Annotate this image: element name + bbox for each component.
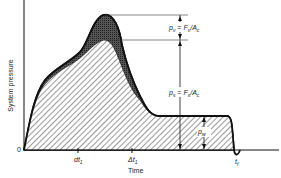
tick-label-dt1: dt1 [74, 156, 83, 165]
diagram-canvas [0, 0, 281, 178]
ps-label: ps = Fs/Ac [169, 89, 199, 98]
Dt-subscript: 1 [135, 159, 138, 165]
pw-label: pw [198, 128, 206, 137]
ps-arrowhead-top [178, 41, 182, 46]
pv-label: pv = Fv/Ac [169, 24, 199, 33]
pv-subscript: v [173, 27, 176, 33]
fs-subscript: s [188, 92, 191, 98]
dt-subscript: 1 [80, 159, 83, 165]
y-axis-label: System pressure [7, 56, 14, 116]
fv-subscript: v [188, 27, 191, 33]
pv-arrowhead-top [178, 16, 182, 21]
pressure-time-diagram: System pressure 0 pv = Fv/Ac ps = Fs/Ac … [0, 0, 281, 178]
ac-subscript: c [197, 27, 200, 33]
ps-subscript: s [173, 92, 176, 98]
pv-arrowhead-bottom [178, 34, 182, 39]
pw-subscript: w [202, 131, 206, 137]
tick-label-tf: tf [235, 158, 238, 167]
origin-label: 0 [17, 146, 21, 153]
tf-subscript: f [237, 161, 238, 167]
ac-subscript: c [197, 92, 200, 98]
Dt-symbol: Δt [128, 156, 135, 163]
tick-label-Dt1: Δt1 [128, 156, 137, 165]
x-axis-label: Time [128, 167, 143, 174]
